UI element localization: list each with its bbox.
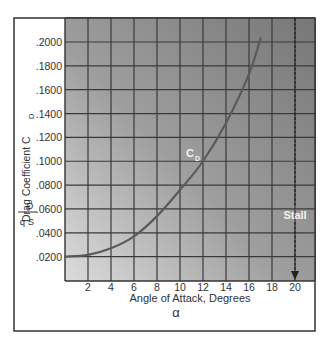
x-tick-label: 20 bbox=[289, 281, 301, 293]
y-tick-label: .0200 bbox=[36, 251, 62, 263]
y-tick-label: .0400 bbox=[36, 227, 62, 239]
x-tick-label: 4 bbox=[108, 281, 114, 293]
y-tick-label: .0600 bbox=[36, 203, 62, 215]
chart-canvas: .0200.0400.0600.0800.1000.1200.1400.1600… bbox=[0, 0, 329, 346]
stall-label: Stall bbox=[283, 209, 306, 221]
y-tick-label: .1200 bbox=[36, 131, 62, 143]
x-tick-label: 18 bbox=[266, 281, 278, 293]
formula-numerator: D bbox=[27, 200, 34, 211]
y-tick-label: .1400 bbox=[36, 108, 62, 120]
curve-label-c: C bbox=[186, 147, 194, 159]
alpha-symbol: α bbox=[172, 305, 180, 320]
formula-denominator: q S bbox=[20, 216, 34, 227]
y-tick-label: .1000 bbox=[36, 155, 62, 167]
drag-coefficient-chart: .0200.0400.0600.0800.1000.1200.1400.1600… bbox=[0, 0, 329, 346]
y-tick-label: .1800 bbox=[36, 60, 62, 72]
y-tick-label: .1600 bbox=[36, 84, 62, 96]
y-tick-label: .2000 bbox=[36, 36, 62, 48]
x-tick-label: 2 bbox=[85, 281, 91, 293]
x-axis-label: Angle of Attack, Degrees bbox=[129, 292, 251, 304]
y-axis-label-subscript: D bbox=[27, 113, 36, 119]
curve-label-subscript: D bbox=[195, 155, 200, 162]
y-tick-label: .0800 bbox=[36, 179, 62, 191]
